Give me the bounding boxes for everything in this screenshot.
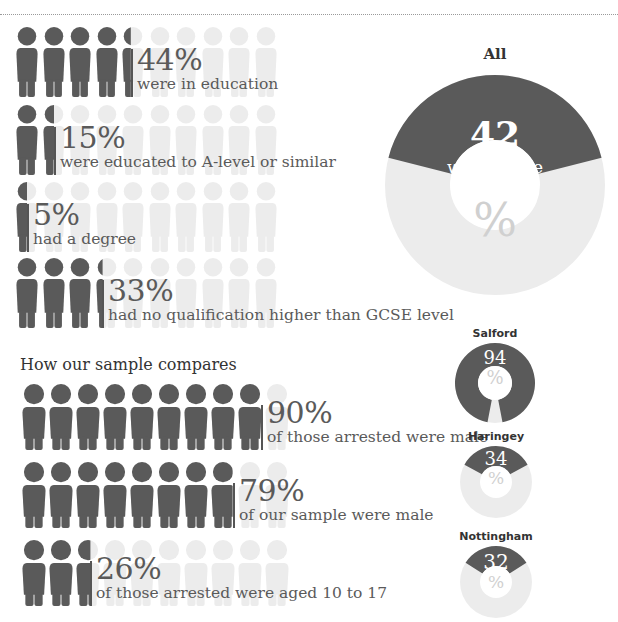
- person-icon: [211, 462, 235, 528]
- person-icon: [76, 462, 100, 528]
- row-percentage: 15%: [60, 123, 336, 153]
- person-icon: [16, 27, 38, 97]
- row-description: were in education: [137, 75, 278, 93]
- person-icon: [184, 384, 208, 450]
- person-icon: [16, 258, 38, 328]
- percent-symbol: %: [385, 193, 605, 247]
- person-icon: [130, 462, 154, 528]
- value-divider: [90, 561, 92, 606]
- value-divider: [102, 280, 104, 328]
- row-percentage: 26%: [96, 554, 387, 584]
- row-description: of our sample were male: [239, 506, 434, 524]
- donut-value: 94: [445, 347, 545, 368]
- row-label: 5% had a degree: [33, 200, 136, 248]
- section-title: How our sample compares: [20, 355, 237, 374]
- person-icon: [49, 462, 73, 528]
- row-description: of those arrested were aged 10 to 17: [96, 584, 387, 602]
- person-icon: [184, 462, 208, 528]
- donut-title: All: [385, 45, 605, 63]
- person-icon: [69, 27, 91, 97]
- percent-symbol: %: [450, 572, 542, 592]
- percent-symbol: %: [450, 468, 542, 488]
- person-icon: [157, 384, 181, 450]
- donut-salford: Salford 94 %: [445, 327, 545, 427]
- person-icon: [16, 105, 38, 175]
- person-icon: [157, 462, 181, 528]
- row-description: were educated to A-level or similar: [60, 153, 336, 171]
- person-icon: [43, 27, 65, 97]
- row-label: 79% of our sample were male: [239, 476, 434, 524]
- row-percentage: 44%: [137, 45, 278, 75]
- row-percentage: 79%: [239, 476, 434, 506]
- person-icon: [149, 182, 171, 252]
- person-icon: [22, 462, 46, 528]
- person-icon: [103, 462, 127, 528]
- person-icon: [255, 182, 277, 252]
- row-label: 44% were in education: [137, 45, 278, 93]
- donut-chart: [385, 75, 605, 295]
- row-percentage: 5%: [33, 200, 136, 230]
- value-divider: [261, 405, 263, 450]
- row-label: 26% of those arrested were aged 10 to 17: [96, 554, 387, 602]
- value-divider: [54, 127, 56, 175]
- person-icon: [103, 384, 127, 450]
- value-divider: [27, 204, 29, 252]
- row-description: had a degree: [33, 230, 136, 248]
- person-icon: [22, 384, 46, 450]
- person-icon: [202, 182, 224, 252]
- donut-nottingham: Nottingham 32 %: [450, 530, 542, 622]
- donut-title: Nottingham: [450, 530, 542, 543]
- donut-title: Salford: [445, 327, 545, 340]
- person-icon: [49, 384, 73, 450]
- donut-haringey: Haringey 34 %: [450, 430, 542, 522]
- person-icon: [76, 384, 100, 450]
- person-icon: [49, 540, 73, 606]
- person-icon: [22, 540, 46, 606]
- person-icon: [228, 182, 250, 252]
- person-icon: [238, 384, 262, 450]
- person-icon: [96, 27, 118, 97]
- donut-value: 42: [385, 113, 605, 155]
- value-divider: [131, 49, 133, 97]
- dotted-separator: [0, 14, 618, 15]
- row-description: had no qualification higher than GCSE le…: [108, 306, 454, 324]
- person-icon: [211, 384, 235, 450]
- donut-label: were white: [385, 157, 605, 177]
- donut-value: 34: [450, 448, 542, 469]
- row-label: 15% were educated to A-level or similar: [60, 123, 336, 171]
- person-icon: [175, 182, 197, 252]
- person-icon: [43, 258, 65, 328]
- donut-value: 32: [450, 550, 542, 574]
- donut-title: Haringey: [450, 430, 542, 443]
- person-icon: [130, 384, 154, 450]
- value-divider: [233, 483, 235, 528]
- donut-all: All 42 were white %: [385, 45, 605, 300]
- person-icon: [69, 258, 91, 328]
- percent-symbol: %: [445, 367, 545, 388]
